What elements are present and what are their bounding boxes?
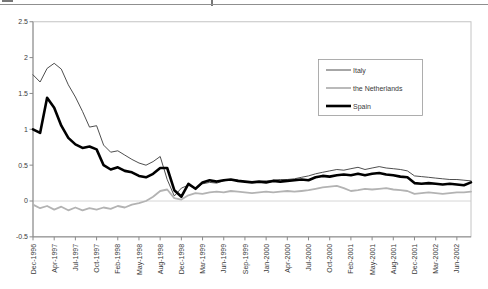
series-line-the-netherlands (33, 186, 471, 210)
x-tick-label: Feb-2001 (348, 244, 355, 274)
legend: Italy the Netherlands Spain (319, 60, 423, 116)
x-tick-label: Jun-1999 (220, 244, 227, 273)
x-tick-label: Jun-2002 (453, 244, 460, 273)
legend-label-spain: Spain (353, 103, 371, 111)
x-tick-label: Sep-1999 (242, 244, 250, 274)
legend-label-netherlands: the Netherlands (353, 85, 403, 92)
y-tick-label: 2 (24, 54, 28, 61)
x-tick-label: Feb-1998 (114, 244, 121, 274)
y-tick-label: -0.5 (16, 233, 28, 240)
x-tick-label: Dec-2001 (411, 244, 418, 274)
x-tick-label: May-2001 (369, 244, 377, 275)
x-tick-label: Jul-1997 (72, 244, 79, 271)
x-tick-label: Mar-2002 (432, 244, 439, 274)
x-tick-label: Oct-2000 (326, 244, 333, 273)
x-tick-label: May-1998 (136, 244, 144, 275)
x-tick-label: Apr-2000 (284, 244, 292, 273)
y-tick-label: 1.5 (18, 90, 28, 97)
y-tick-label: 0 (24, 197, 28, 204)
x-tick-label: Mar-1999 (199, 244, 206, 274)
x-axis: Dec-1996Apr-1997Jul-1997Oct-1997Feb-1998… (30, 237, 471, 275)
y-tick-label: 2.5 (18, 18, 28, 25)
y-axis: 2.521.510.50-0.5 (16, 18, 33, 240)
legend-label-italy: Italy (353, 67, 366, 75)
x-tick-label: Oct-1997 (93, 244, 100, 273)
interest-rate-line-chart: 2.521.510.50-0.5 Dec-1996Apr-1997Jul-199… (0, 0, 488, 289)
plot-area (33, 22, 471, 237)
x-tick-label: Dec-1998 (178, 244, 185, 274)
x-tick-label: Jul-2000 (305, 244, 312, 271)
x-tick-label: Apr-1997 (51, 244, 59, 273)
x-tick-label: Aug-2001 (390, 244, 398, 274)
x-tick-label: Dec-1996 (30, 244, 37, 274)
figure-page: 2.521.510.50-0.5 Dec-1996Apr-1997Jul-199… (0, 0, 488, 289)
y-tick-label: 0.5 (18, 162, 28, 169)
x-tick-label: Aug-1998 (157, 244, 165, 274)
x-tick-label: Jan-2000 (263, 244, 270, 273)
y-tick-label: 1 (24, 126, 28, 133)
